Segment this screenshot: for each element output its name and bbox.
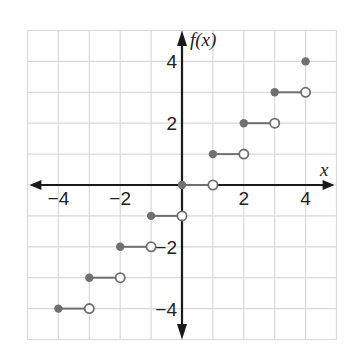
closed-point (271, 88, 279, 96)
closed-point (209, 150, 217, 158)
closed-point (147, 212, 155, 220)
x-axis-left-arrow-icon (30, 180, 42, 190)
closed-point (116, 243, 124, 251)
x-tick-label: −2 (109, 188, 131, 209)
x-tick-label: 4 (300, 188, 311, 209)
open-point (239, 150, 248, 159)
x-tick-label: −4 (48, 188, 70, 209)
open-point (116, 273, 125, 282)
open-point (270, 119, 279, 128)
open-point (177, 211, 186, 220)
open-point (208, 180, 217, 189)
y-tick-label: −4 (155, 299, 177, 320)
closed-point (85, 274, 93, 282)
x-axis-label: x (319, 159, 329, 180)
y-tick-label: −2 (155, 237, 177, 258)
y-axis-up-arrow-icon (177, 31, 187, 46)
y-tick-label: 4 (166, 51, 177, 72)
x-tick-label: 2 (239, 188, 250, 209)
x-axis-right-arrow-icon (323, 180, 335, 190)
closed-point (301, 57, 309, 65)
step-function-graph: −4−22442−2−4f(x)x (0, 0, 361, 361)
open-point (147, 242, 156, 251)
closed-point (240, 119, 248, 127)
open-point (85, 304, 94, 313)
y-tick-label: 2 (166, 113, 177, 134)
y-axis-label: f(x) (190, 29, 216, 51)
closed-point (178, 181, 186, 189)
closed-point (54, 304, 62, 312)
y-axis-down-arrow-icon (177, 324, 187, 339)
open-point (301, 88, 310, 97)
